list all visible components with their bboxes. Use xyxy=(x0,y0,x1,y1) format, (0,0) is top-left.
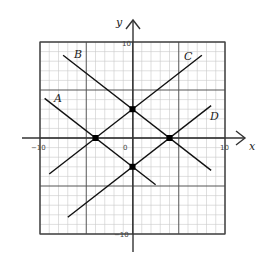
intersection-point xyxy=(130,164,136,170)
line-d-label: D xyxy=(209,110,219,123)
line-d xyxy=(68,106,211,218)
y-tick-pos10: 10 xyxy=(122,40,131,48)
y-axis-label: y xyxy=(115,16,123,29)
x-axis-label: x xyxy=(249,140,256,153)
lines xyxy=(45,55,212,217)
x-tick-neg10: −10 xyxy=(31,144,46,152)
origin-label: 0 xyxy=(123,144,127,152)
coordinate-plane: x y −10 10 10 −10 0 A B C D xyxy=(0,0,265,257)
line-a-label: A xyxy=(53,92,62,105)
intersection-point xyxy=(167,135,173,141)
x-tick-pos10: 10 xyxy=(220,144,229,152)
line-b-label: B xyxy=(73,48,82,61)
line-b xyxy=(63,55,211,170)
y-tick-neg10: −10 xyxy=(114,231,129,239)
line-c-label: C xyxy=(184,50,193,63)
intersection-point xyxy=(93,135,99,141)
intersection-point xyxy=(130,106,136,112)
line-a xyxy=(45,98,156,184)
